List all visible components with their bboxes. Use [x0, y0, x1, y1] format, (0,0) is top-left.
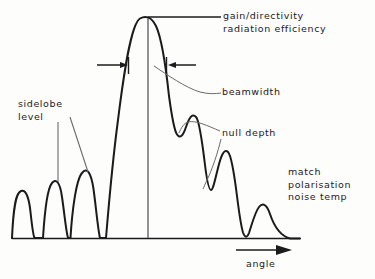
- gain-directivity-line1: gain/directivity: [223, 10, 304, 21]
- gain-directivity-label: gain/directivityradiation efficiency: [223, 10, 326, 35]
- pattern-drawing: [0, 0, 375, 279]
- angle-axis-label: angle: [246, 258, 275, 271]
- sidelobe-level-line2: level: [18, 111, 44, 122]
- beamwidth-leader-line: [154, 66, 221, 94]
- sidelobe-level-line1: sidelobe: [18, 98, 63, 109]
- misc-parameters-label: matchpolarisationnoise temp: [288, 166, 351, 204]
- misc-line-match: match: [288, 166, 321, 177]
- sidelobe-leader-diagonal: [70, 117, 88, 172]
- beamwidth-label: beamwidth: [222, 86, 281, 99]
- beamwidth-right-arrow: [167, 57, 197, 74]
- radiation-pattern-figure: gain/directivityradiation efficiency bea…: [0, 0, 375, 279]
- gain-directivity-line2: radiation efficiency: [223, 23, 326, 34]
- angle-axis-arrow: [236, 245, 292, 255]
- sidelobe-level-label: sidelobelevel: [18, 98, 63, 123]
- misc-line-polarisation: polarisation: [288, 179, 351, 190]
- null-depth-label: null depth: [222, 127, 276, 140]
- misc-line-noise-temp: noise temp: [288, 191, 347, 202]
